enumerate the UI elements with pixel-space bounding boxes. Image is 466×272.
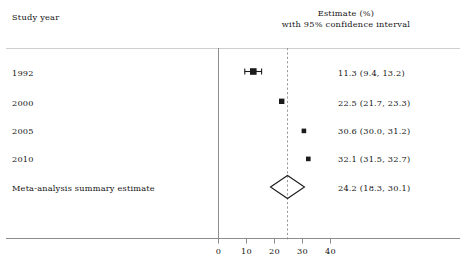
axis-tick-label-40: 40 — [319, 246, 343, 256]
forest-point-1992 — [245, 68, 263, 75]
axis-tick-label-20: 20 — [263, 246, 287, 256]
axis-tick-label-10: 10 — [235, 246, 259, 256]
row-label-summary: Meta-analysis summary estimate — [12, 183, 155, 193]
axis-tick-label-0: 0 — [207, 246, 231, 256]
row-estimate-value: 22.5 (21.7, 23.3) — [338, 98, 410, 108]
row-estimate-value: 11.3 (9.4, 13.2) — [338, 68, 405, 78]
column-header-study-year: Study year — [12, 12, 59, 22]
column-header-estimate-line2: with 95% confidence interval — [238, 19, 454, 30]
axis-tick-label-30: 30 — [291, 246, 315, 256]
row-estimate-value: 32.1 (31.5, 32.7) — [338, 154, 410, 164]
row-estimate-value-summary: 24.2 (18.3, 30.1) — [338, 183, 410, 193]
column-header-estimate: Estimate (%) with 95% confidence interva… — [238, 8, 454, 30]
forest-point-2000 — [279, 99, 284, 104]
estimate-marker-2005 — [302, 129, 307, 134]
column-header-estimate-line1: Estimate (%) — [238, 8, 454, 19]
row-label-study-year: 2010 — [12, 154, 34, 164]
row-estimate-value: 30.6 (30.0, 31.2) — [338, 126, 410, 136]
forest-point-2010 — [306, 157, 311, 162]
axis-ticks — [219, 239, 331, 244]
row-label-study-year: 2000 — [12, 98, 34, 108]
estimate-marker-2000 — [279, 99, 284, 104]
forest-point-2005 — [302, 129, 307, 134]
estimate-marker-1992 — [250, 68, 257, 75]
row-label-study-year: 1992 — [12, 68, 34, 78]
estimate-marker-2010 — [306, 157, 311, 162]
row-label-study-year: 2005 — [12, 126, 34, 136]
forest-plot — [0, 0, 466, 272]
